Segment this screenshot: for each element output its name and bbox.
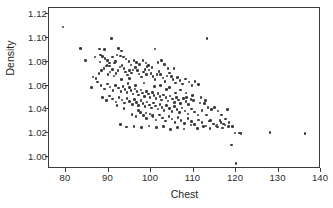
data-point <box>210 108 213 111</box>
data-point <box>108 95 111 98</box>
data-point <box>140 89 143 92</box>
data-point <box>190 108 193 111</box>
data-point <box>238 132 241 135</box>
data-point <box>169 95 172 98</box>
data-point <box>158 70 161 73</box>
data-point <box>174 121 177 124</box>
data-point <box>202 125 205 128</box>
data-point <box>128 69 131 72</box>
data-point <box>94 56 97 59</box>
data-point <box>151 66 154 69</box>
data-point <box>126 74 129 77</box>
data-point <box>148 69 151 72</box>
data-point <box>159 73 162 76</box>
data-point <box>103 67 106 70</box>
data-point <box>121 99 124 102</box>
data-point <box>134 84 137 87</box>
data-point <box>205 114 208 117</box>
data-point <box>141 92 144 95</box>
data-point <box>163 109 166 112</box>
data-point <box>140 126 143 129</box>
data-point <box>111 56 114 59</box>
data-point <box>100 84 103 87</box>
data-point <box>160 99 163 102</box>
data-point <box>145 73 148 76</box>
data-point <box>137 109 140 112</box>
data-point <box>125 58 128 61</box>
data-point <box>84 59 87 62</box>
data-point <box>155 119 158 122</box>
data-point <box>168 115 171 118</box>
x-tick-mark <box>65 168 66 172</box>
data-point <box>161 117 164 120</box>
data-point <box>117 87 120 90</box>
data-point <box>168 107 171 110</box>
data-point <box>221 127 224 130</box>
data-point <box>111 68 114 71</box>
data-point <box>166 75 169 78</box>
data-point <box>228 121 231 124</box>
data-point <box>168 72 171 75</box>
data-point <box>191 84 194 87</box>
data-point <box>162 125 165 128</box>
data-point <box>121 64 124 67</box>
data-point <box>160 59 163 62</box>
y-tick-label: 1.12 <box>28 7 47 18</box>
data-point <box>124 71 127 74</box>
data-point <box>165 96 168 99</box>
data-point <box>126 91 129 94</box>
data-point <box>144 68 147 71</box>
data-point <box>115 72 118 75</box>
data-point <box>154 105 157 108</box>
data-point <box>146 101 149 104</box>
data-point <box>179 79 182 82</box>
data-point <box>123 107 126 110</box>
data-point <box>163 63 166 66</box>
data-point <box>184 110 187 113</box>
data-point <box>188 81 191 84</box>
data-point <box>143 82 146 85</box>
data-point <box>139 111 142 114</box>
data-point <box>178 111 181 114</box>
data-point <box>177 116 180 119</box>
data-point <box>169 128 172 131</box>
y-tick-label: 1.00 <box>28 151 47 162</box>
data-point <box>128 100 131 103</box>
data-point <box>134 66 137 69</box>
x-tick-label: 130 <box>269 172 285 183</box>
data-point <box>108 65 111 68</box>
data-point <box>128 77 131 80</box>
x-axis-label: Chest <box>0 188 333 200</box>
data-point <box>196 127 199 130</box>
data-point <box>90 86 93 89</box>
data-point <box>137 104 140 107</box>
data-point <box>118 96 121 99</box>
data-point <box>105 99 108 102</box>
data-point <box>154 78 157 81</box>
data-point <box>207 106 210 109</box>
data-point <box>149 96 152 99</box>
data-point <box>103 88 106 91</box>
data-point <box>151 114 154 117</box>
data-point <box>117 69 120 72</box>
data-point <box>230 144 233 147</box>
x-tick-label: 90 <box>102 172 113 183</box>
data-point <box>181 107 184 110</box>
data-point <box>227 125 230 128</box>
data-point <box>109 86 112 89</box>
data-point <box>157 61 160 64</box>
data-point <box>144 105 147 108</box>
data-point <box>157 108 160 111</box>
x-axis-label-text: Chest <box>135 188 198 200</box>
data-point <box>172 78 175 81</box>
data-point <box>119 123 122 126</box>
data-point <box>116 104 119 107</box>
data-point <box>185 96 188 99</box>
data-point <box>137 94 140 97</box>
data-point <box>197 83 200 86</box>
data-point <box>103 48 106 51</box>
x-tick-mark <box>278 168 279 172</box>
data-point <box>131 113 134 116</box>
data-point <box>190 124 193 127</box>
data-point <box>107 73 110 76</box>
